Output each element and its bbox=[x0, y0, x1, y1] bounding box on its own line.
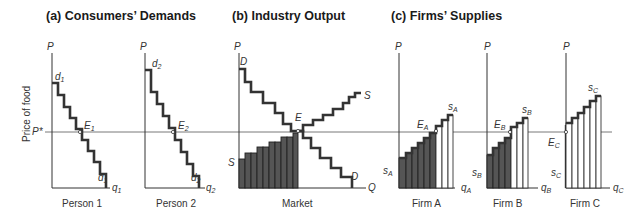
p-axis-label: P bbox=[395, 41, 402, 52]
demand-label-bottom: D bbox=[351, 171, 358, 182]
supply-label-top: sA bbox=[448, 101, 458, 113]
eq-label: EC bbox=[548, 137, 561, 149]
supply-label-top: sC bbox=[588, 82, 599, 94]
supply-label-left: sA bbox=[383, 165, 393, 177]
eq-label: E2 bbox=[178, 120, 189, 132]
supply-label-top: sB bbox=[522, 104, 532, 116]
supply-label-left: sB bbox=[472, 167, 482, 179]
equilibrium-point bbox=[564, 130, 567, 133]
equilibrium-point bbox=[78, 130, 81, 133]
supply-label-top: S bbox=[364, 90, 371, 101]
x-axis-label: Q bbox=[368, 182, 376, 193]
x-axis-label: qB bbox=[541, 182, 552, 194]
equilibrium-point bbox=[171, 130, 174, 133]
caption: Firm A bbox=[412, 198, 441, 209]
p-star-label: P* bbox=[32, 126, 44, 137]
x-axis-label: q2 bbox=[206, 182, 216, 194]
caption: Person 1 bbox=[62, 198, 102, 209]
panel-person2: P d2 E2 d2 q2 Person 2 bbox=[140, 41, 216, 209]
caption: Firm B bbox=[493, 198, 523, 209]
eq-label: EA bbox=[417, 119, 429, 131]
equilibrium-point bbox=[508, 130, 511, 133]
x-axis-label: qC bbox=[613, 182, 625, 194]
equilibrium-point bbox=[296, 129, 299, 132]
supply-demand-figure: (a) Consumers’ Demands (b) Industry Outp… bbox=[0, 0, 638, 217]
panel-market: P D E S S D Q Market bbox=[228, 41, 376, 209]
curve-label-top: d1 bbox=[55, 71, 65, 83]
curve-label-bottom: d2 bbox=[191, 172, 201, 184]
eq-label: E1 bbox=[84, 120, 95, 132]
panel-firm-a: P sA EA sA qA Firm A bbox=[383, 41, 472, 209]
shaded-supply-bars bbox=[239, 133, 298, 188]
panel-firm-b: P sB EB sB qB Firm B bbox=[472, 41, 552, 209]
p-axis-label: P bbox=[234, 41, 241, 52]
title-industry-output: (b) Industry Output bbox=[232, 9, 346, 23]
demand-curve-d2 bbox=[145, 70, 199, 188]
p-axis-label: P bbox=[140, 41, 147, 52]
supply-label-left: S bbox=[228, 157, 235, 168]
curve-label-top: d2 bbox=[152, 58, 162, 70]
market-supply-curve bbox=[299, 93, 361, 131]
p-axis-label: P bbox=[47, 41, 54, 52]
eq-label: E bbox=[295, 112, 302, 123]
eq-label: EB bbox=[494, 119, 506, 131]
p-axis-label: P bbox=[563, 41, 570, 52]
supply-label-left: sC bbox=[551, 167, 562, 179]
p-axis-label: P bbox=[484, 41, 491, 52]
demand-label-top: D bbox=[240, 56, 247, 67]
x-axis-label: q1 bbox=[112, 182, 122, 194]
panel-firm-c: P sC EC sC qC Firm C bbox=[548, 41, 625, 209]
axes bbox=[145, 53, 205, 188]
caption: Firm C bbox=[570, 198, 600, 209]
equilibrium-point bbox=[434, 129, 437, 132]
title-firms-supplies: (c) Firms’ Supplies bbox=[391, 9, 502, 23]
caption: Market bbox=[282, 198, 313, 209]
x-axis-label: qA bbox=[461, 182, 472, 194]
caption: Person 2 bbox=[156, 198, 196, 209]
panel-person1: P d1 E1 d1 q1 Person 1 bbox=[47, 41, 122, 209]
title-consumers-demands: (a) Consumers’ Demands bbox=[46, 9, 196, 23]
y-axis-label: Price of food bbox=[21, 86, 32, 142]
